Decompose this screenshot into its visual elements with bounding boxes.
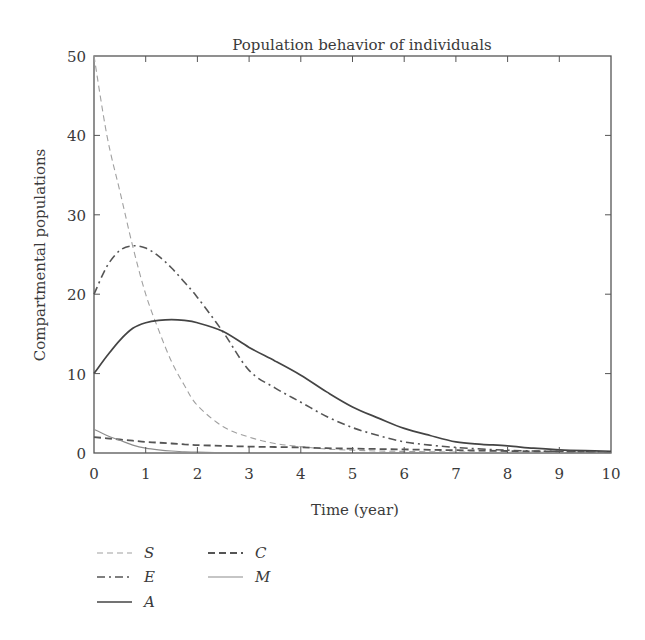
legend-item-c: C [208, 544, 267, 562]
figure-caption-cutoff [0, 628, 645, 640]
legend-item-m: M [208, 568, 271, 586]
x-tick-label: 10 [601, 465, 620, 483]
legend-item-a: A [97, 593, 155, 611]
legend-label: A [142, 593, 155, 611]
series-line-s [94, 56, 611, 453]
y-tick-label: 0 [76, 445, 86, 463]
x-axis-label: Time (year) [311, 501, 399, 519]
legend-label: C [255, 544, 267, 562]
axis-ticks: 01234567891001020304050 [67, 48, 621, 483]
line-chart: Population behavior of individuals 01234… [0, 0, 645, 640]
x-tick-label: 7 [451, 465, 461, 483]
legend-item-s: S [97, 544, 154, 562]
legend-label: S [144, 544, 154, 562]
x-tick-label: 8 [503, 465, 513, 483]
x-tick-label: 5 [348, 465, 358, 483]
x-tick-label: 9 [555, 465, 565, 483]
x-tick-label: 0 [89, 465, 99, 483]
legend-label: E [143, 568, 155, 586]
x-tick-label: 4 [296, 465, 306, 483]
y-axis-label: Compartmental populations [31, 149, 49, 362]
y-tick-label: 10 [67, 366, 86, 384]
legend-item-e: E [97, 568, 155, 586]
series-line-a [94, 320, 611, 452]
chart-title: Population behavior of individuals [232, 36, 491, 54]
legend: SEACM [97, 544, 271, 611]
legend-label: M [254, 568, 271, 586]
plot-area [94, 56, 611, 453]
y-tick-label: 50 [67, 48, 86, 66]
plot-frame [94, 56, 611, 453]
y-tick-label: 40 [67, 127, 86, 145]
series-layer [94, 56, 611, 453]
x-tick-label: 1 [141, 465, 151, 483]
series-line-e [94, 246, 611, 452]
x-tick-label: 3 [244, 465, 254, 483]
y-tick-label: 30 [67, 207, 86, 225]
y-tick-label: 20 [67, 286, 86, 304]
x-tick-label: 2 [193, 465, 203, 483]
x-tick-label: 6 [399, 465, 409, 483]
